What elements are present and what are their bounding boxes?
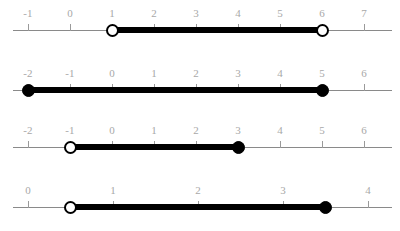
axis-tick <box>28 141 29 148</box>
number-line: -2-10123456 <box>0 117 400 163</box>
number-line: -101234567 <box>0 0 400 46</box>
axis-tick-label: 2 <box>184 125 208 136</box>
axis-tick-label: 4 <box>268 68 292 79</box>
axis-tick-label: -2 <box>16 125 40 136</box>
axis-tick-label: 1 <box>142 125 166 136</box>
axis-tick <box>364 84 365 91</box>
axis-tick <box>28 24 29 31</box>
axis-tick-label: 7 <box>352 8 376 19</box>
interval-endpoint-start-closed <box>22 84 35 97</box>
axis-tick-label: -1 <box>58 125 82 136</box>
axis-tick <box>364 24 365 31</box>
number-line: 01234 <box>0 177 400 223</box>
axis-tick-label: 3 <box>184 8 208 19</box>
axis-tick <box>322 141 323 148</box>
number-line-stack: -101234567-2-10123456-2-1012345601234 <box>0 0 400 231</box>
interval-endpoint-end-closed <box>319 201 332 214</box>
interval-segment <box>112 27 322 33</box>
axis-tick-label: 4 <box>356 185 380 196</box>
axis-tick <box>70 24 71 31</box>
axis-tick-label: 5 <box>310 125 334 136</box>
axis-tick-label: -1 <box>58 68 82 79</box>
axis-tick-label: 0 <box>100 68 124 79</box>
axis-tick-label: 3 <box>271 185 295 196</box>
interval-segment <box>28 87 322 93</box>
interval-endpoint-start-open <box>64 201 77 214</box>
interval-endpoint-end-closed <box>316 84 329 97</box>
axis-tick-label: 6 <box>352 68 376 79</box>
axis-tick-label: 4 <box>226 8 250 19</box>
axis-tick-label: 3 <box>226 68 250 79</box>
axis-tick-label: 3 <box>226 125 250 136</box>
interval-endpoint-start-open <box>64 141 77 154</box>
axis-tick-label: 0 <box>58 8 82 19</box>
interval-segment <box>70 144 238 150</box>
interval-endpoint-end-open <box>316 24 329 37</box>
axis-tick <box>364 141 365 148</box>
interval-endpoint-end-closed <box>232 141 245 154</box>
axis-tick-label: 5 <box>310 68 334 79</box>
axis-tick-label: 5 <box>268 8 292 19</box>
axis-tick <box>280 141 281 148</box>
axis-tick <box>28 201 29 208</box>
axis-tick-label: 4 <box>268 125 292 136</box>
axis-tick-label: 1 <box>100 8 124 19</box>
interval-endpoint-start-open <box>106 24 119 37</box>
interval-segment <box>71 204 326 210</box>
axis-tick <box>368 201 369 208</box>
axis-tick-label: 1 <box>142 68 166 79</box>
axis-tick-label: 2 <box>142 8 166 19</box>
axis-tick-label: 2 <box>184 68 208 79</box>
axis-tick-label: 2 <box>186 185 210 196</box>
axis-tick-label: 0 <box>16 185 40 196</box>
axis-tick-label: -2 <box>16 68 40 79</box>
axis-tick-label: 1 <box>101 185 125 196</box>
number-line: -2-10123456 <box>0 60 400 106</box>
axis-tick-label: -1 <box>16 8 40 19</box>
axis-tick-label: 6 <box>310 8 334 19</box>
axis-tick-label: 6 <box>352 125 376 136</box>
axis-tick-label: 0 <box>100 125 124 136</box>
